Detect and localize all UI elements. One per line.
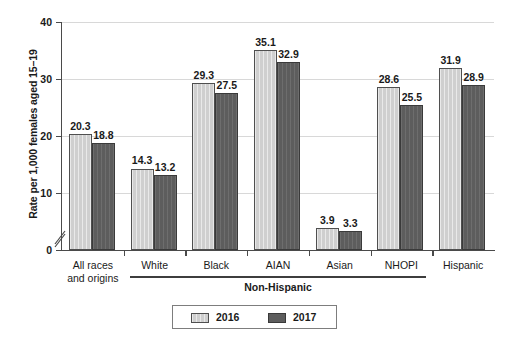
chart-legend: 20162017 (172, 305, 337, 329)
x-axis-separator (432, 250, 433, 256)
legend-swatch-2017 (268, 313, 286, 323)
bar-value-label: 27.5 (209, 80, 244, 91)
y-tick-label: 40 (30, 17, 52, 28)
y-tick-label: 20 (30, 131, 52, 142)
gridline (62, 22, 494, 23)
x-axis-separator (309, 250, 310, 256)
bar-value-label: 13.2 (148, 162, 183, 173)
y-tick-label: 10 (30, 188, 52, 199)
legend-item-2016: 2016 (191, 311, 239, 324)
bar-2016-hispanic (439, 68, 462, 250)
y-tick-label: 0 (30, 245, 52, 256)
x-axis-separator (371, 250, 372, 256)
bar-value-label: 35.1 (248, 37, 283, 48)
bar-2017-hispanic (462, 85, 485, 250)
y-tick-label: 30 (30, 74, 52, 85)
bar-2017-nhopi (400, 105, 423, 250)
bar-2016-white (131, 169, 154, 251)
bar-2017-asian (339, 231, 362, 250)
legend-swatch-2016 (191, 313, 209, 323)
x-axis-separator (247, 250, 248, 256)
bar-2016-nhopi (377, 87, 400, 250)
bar-2017-aian (277, 62, 300, 250)
bar-value-label: 28.6 (371, 74, 406, 85)
x-axis-line (62, 250, 495, 251)
x-axis-separator (185, 250, 186, 256)
bar-2017-white (154, 175, 177, 250)
bar-chart: Rate per 1,000 females aged 15–19 010203… (0, 0, 505, 345)
bar-value-label: 32.9 (271, 49, 306, 60)
plot-area: 20.318.814.313.229.327.535.132.93.93.328… (62, 22, 494, 250)
bar-2016-all-races-and-origins (69, 134, 92, 250)
legend-label-2017: 2017 (293, 312, 316, 323)
bar-value-label: 31.9 (433, 55, 468, 66)
bar-2017-all-races-and-origins (92, 143, 115, 250)
bar-2017-black (215, 93, 238, 250)
bar-2016-aian (254, 50, 277, 250)
bar-value-label: 18.8 (86, 130, 121, 141)
x-axis-separator (124, 250, 125, 256)
bar-value-label: 3.3 (333, 218, 368, 229)
group-bracket-label: Non-Hispanic (130, 281, 427, 293)
bar-value-label: 25.5 (394, 92, 429, 103)
legend-label-2016: 2016 (216, 312, 239, 323)
x-category-label-hispanic: Hispanic (422, 259, 504, 272)
legend-item-2017: 2017 (268, 311, 316, 324)
bar-2016-black (192, 83, 215, 250)
bar-2016-asian (316, 228, 339, 250)
group-bracket-line (130, 276, 427, 278)
bar-value-label: 28.9 (456, 72, 491, 83)
